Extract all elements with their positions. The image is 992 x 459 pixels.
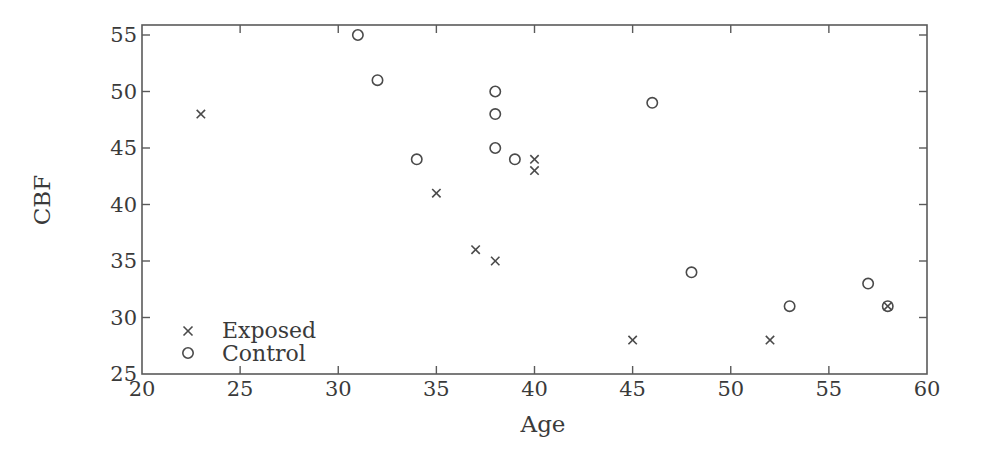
exposed-point (884, 302, 892, 310)
exposed-point (530, 166, 538, 174)
y-axis-label: CBF (29, 175, 55, 225)
control-point (863, 278, 873, 288)
y-tick-label: 35 (110, 249, 137, 273)
y-tick-label: 55 (110, 23, 137, 47)
legend-label-control: Control (222, 341, 306, 366)
y-tick-label: 30 (110, 306, 137, 330)
exposed-point (471, 246, 479, 254)
control-point (490, 86, 500, 96)
control-point (412, 154, 422, 164)
x-marker-icon (184, 327, 193, 336)
y-tick-label: 45 (110, 136, 137, 160)
x-tick-label: 40 (521, 377, 548, 401)
circle-marker-icon (183, 348, 193, 358)
exposed-point (197, 110, 205, 118)
control-point (490, 143, 500, 153)
exposed-point (530, 155, 538, 163)
control-point (647, 98, 657, 108)
control-point (353, 30, 363, 40)
y-tick-label: 40 (110, 193, 137, 217)
legend-item-exposed: Exposed (184, 318, 317, 343)
y-tick-label: 25 (110, 362, 137, 386)
x-tick-label: 30 (325, 377, 352, 401)
control-point (372, 75, 382, 85)
data-points (197, 30, 893, 345)
legend-label-exposed: Exposed (222, 318, 316, 343)
control-point (490, 109, 500, 119)
x-tick-label: 45 (619, 377, 646, 401)
control-point (686, 267, 696, 277)
control-point (510, 154, 520, 164)
exposed-point (628, 336, 636, 344)
exposed-point (432, 189, 440, 197)
scatter-chart: 202530354045505560 25303540455055 Age CB… (0, 0, 992, 459)
x-tick-label: 25 (227, 377, 254, 401)
exposed-point (491, 257, 499, 265)
x-tick-label: 60 (914, 377, 941, 401)
y-tick-label: 50 (110, 80, 137, 104)
exposed-point (766, 336, 774, 344)
x-tick-label: 35 (423, 377, 450, 401)
x-tick-label: 50 (717, 377, 744, 401)
x-axis-label: Age (520, 411, 566, 437)
legend: Exposed Control (183, 318, 316, 366)
legend-item-control: Control (183, 341, 306, 366)
control-point (784, 301, 794, 311)
x-tick-label: 55 (816, 377, 843, 401)
